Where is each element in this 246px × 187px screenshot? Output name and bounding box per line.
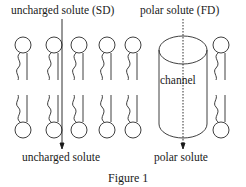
- uncharged-solute-arrow: [60, 19, 64, 149]
- membrane-diagram: [0, 0, 246, 187]
- top-leaflet: [15, 37, 229, 80]
- channel-cylinder: [159, 36, 207, 138]
- polar-solute-arrow: [181, 19, 185, 149]
- bottom-leaflet: [15, 95, 229, 138]
